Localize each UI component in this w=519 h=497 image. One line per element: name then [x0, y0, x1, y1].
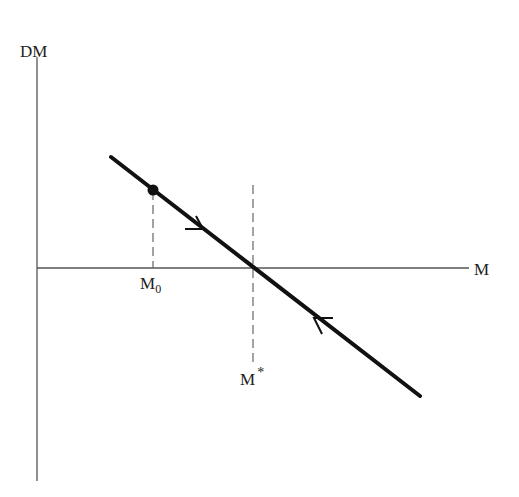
y-axis-label: DM	[20, 42, 47, 61]
mstar-label: M*	[240, 365, 264, 389]
initial-point-dot	[148, 185, 159, 196]
x-axis-label: M	[474, 260, 489, 279]
phase-diagram: DM M M0 M*	[0, 0, 519, 497]
m0-label: M0	[140, 274, 161, 296]
